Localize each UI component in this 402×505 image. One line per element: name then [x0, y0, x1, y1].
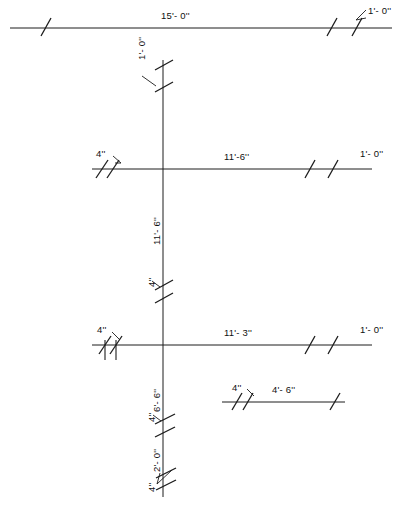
vertical-top-dimension-label: 1'- 0'' — [136, 37, 147, 60]
vertical-lower-a-tick-label: 4'' — [146, 412, 157, 422]
vertical-top-leader — [142, 76, 156, 86]
lower-left-leader — [112, 332, 120, 340]
vertical-mid-tick-label: 4'' — [146, 277, 157, 287]
middle-end-dimension-label: 1'- 0'' — [360, 148, 383, 159]
vertical-dimension-group: 1'- 0'' 11'- 6'' 4'' 6'- 6'' 4'' 2'- 0''… — [136, 37, 176, 497]
top-left-tick-icon — [41, 18, 51, 36]
short-left-leader — [247, 389, 254, 396]
vertical-mid-tick-b-icon — [155, 293, 173, 303]
vertical-lower-a-label: 6'- 6'' — [151, 389, 162, 412]
top-end-dimension-label: 1'- 0'' — [368, 5, 391, 16]
top-right-tick-b-icon — [352, 18, 362, 36]
top-dimension-label: 15'- 0'' — [161, 10, 190, 21]
vertical-top-tick-b-icon — [155, 82, 173, 92]
short-start-dimension-label: 4'' — [232, 382, 242, 393]
lower-dimension-label: 11'- 3'' — [224, 327, 252, 338]
lower-horizontal-dimension-group: 4'' 11'- 3'' 1'- 0'' — [92, 324, 383, 360]
vertical-top-tick-a-icon — [155, 60, 173, 70]
middle-dimension-label: 11'-6'' — [224, 151, 249, 162]
technical-drawing: 15'- 0'' 1'- 0'' 1'- 0'' 11'- 6'' 4'' 6'… — [0, 0, 402, 505]
middle-start-dimension-label: 4'' — [96, 148, 106, 159]
vertical-lower-b-tick-label: 4'' — [146, 482, 157, 492]
top-right-tick-a-icon — [327, 18, 337, 36]
vertical-lower-b-tick-b-icon — [156, 480, 176, 490]
lower-end-dimension-label: 1'- 0'' — [360, 324, 383, 335]
top-horizontal-dimension-group: 15'- 0'' 1'- 0'' — [10, 5, 392, 36]
vertical-lower-a-tick-b-icon — [155, 427, 175, 437]
dimension-drawing-canvas: 15'- 0'' 1'- 0'' 1'- 0'' 11'- 6'' 4'' 6'… — [0, 0, 402, 505]
middle-horizontal-dimension-group: 4'' 11'-6'' 1'- 0'' — [92, 148, 383, 178]
vertical-lower-b-label: 2'- 0'' — [151, 449, 162, 472]
lower-start-dimension-label: 4'' — [97, 324, 107, 335]
short-horizontal-dimension-group: 4'' 4'- 6'' — [222, 382, 345, 410]
vertical-mid-dimension-label: 11'- 6'' — [151, 217, 162, 245]
short-dimension-label: 4'- 6'' — [272, 384, 295, 395]
